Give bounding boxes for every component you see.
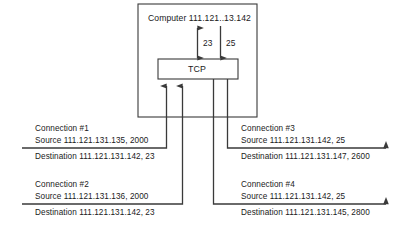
connection-4-source: Source 111.121.131.142, 25: [241, 192, 345, 202]
connection-3-source: Source 111.121.131.142, 25: [241, 136, 345, 146]
connection-1-source: Source 111.121.131.135, 2000: [35, 136, 148, 146]
connection-4-destination: Destination 111.121.131.145, 2800: [241, 208, 370, 218]
connection-1-destination: Destination 111.121.131.142, 23: [35, 152, 155, 162]
connection-4-title: Connection #4: [241, 180, 295, 190]
connection-3-destination: Destination 111.121.131.147, 2600: [241, 152, 370, 162]
computer-label: Computer 111.121..13.142: [148, 13, 251, 23]
connection-3-title: Connection #3: [241, 124, 295, 134]
connection-2-destination: Destination 111.121.131.142, 23: [35, 208, 155, 218]
connection-2-title: Connection #2: [35, 180, 89, 190]
connection-2-source: Source 111.121.131.136, 2000: [35, 192, 148, 202]
port-25-label: 25: [226, 38, 235, 48]
port-23-label: 23: [203, 38, 212, 48]
tcp-label: TCP: [188, 64, 206, 74]
connection-1-title: Connection #1: [35, 124, 89, 134]
diagram-canvas: Computer 111.121..13.142 TCP 23 25 Conne…: [0, 0, 411, 226]
